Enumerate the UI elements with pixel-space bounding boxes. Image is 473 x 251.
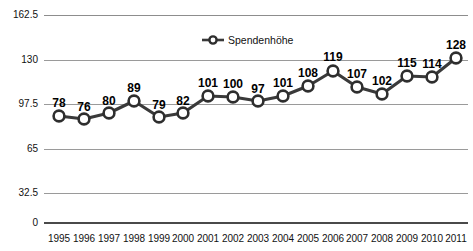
data-point-2003 — [253, 96, 264, 107]
chart-container: 162.5 130 97.5 65 32.5 0 Spendenhöhe — [0, 0, 473, 251]
data-label-1998: 89 — [116, 82, 152, 94]
data-point-2001 — [203, 91, 214, 102]
data-label-2000: 82 — [165, 95, 201, 107]
data-point-2006 — [328, 66, 339, 77]
data-point-2002 — [228, 92, 239, 103]
data-label-2005: 108 — [290, 67, 326, 79]
data-point-2009 — [402, 71, 413, 82]
data-point-1997 — [104, 108, 115, 119]
data-point-1999 — [154, 112, 165, 123]
data-label-2006: 119 — [315, 51, 351, 63]
data-point-2011 — [451, 53, 462, 64]
data-point-2010 — [427, 72, 438, 83]
data-point-2005 — [303, 81, 314, 92]
x-axis-tick-label-2011: 2011 — [438, 233, 473, 244]
data-point-1996 — [79, 114, 90, 125]
data-label-2010: 114 — [414, 58, 450, 70]
data-label-1997: 80 — [91, 95, 127, 107]
data-point-2000 — [178, 108, 189, 119]
data-point-2007 — [352, 82, 363, 93]
series-plot — [0, 0, 473, 251]
data-point-2004 — [278, 91, 289, 102]
data-label-2011: 128 — [438, 39, 473, 51]
data-point-1995 — [54, 111, 65, 122]
data-point-1998 — [129, 96, 140, 107]
data-point-2008 — [377, 89, 388, 100]
data-label-2008: 102 — [364, 75, 400, 87]
